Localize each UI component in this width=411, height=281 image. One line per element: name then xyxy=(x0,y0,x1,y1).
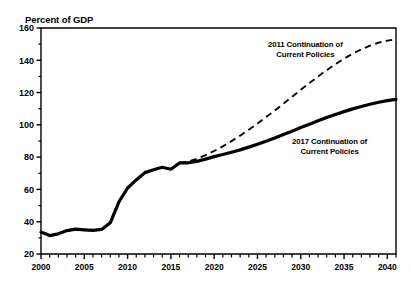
y-tick-label: 20 xyxy=(24,249,34,259)
x-tick-label: 2010 xyxy=(118,262,137,272)
y-tick-label: 160 xyxy=(19,23,34,33)
y-tick-label: 140 xyxy=(19,56,34,66)
annotation-solid-line1: 2017 Continuation of xyxy=(292,137,367,147)
annotation-dashed-line2: Current Policies xyxy=(268,50,343,60)
annotation-solid-line2: Current Policies xyxy=(292,147,367,157)
y-tick-label: 60 xyxy=(24,185,34,195)
annotation-dashed-series: 2011 Continuation of Current Policies xyxy=(268,40,343,60)
x-tick-label: 2015 xyxy=(161,262,180,272)
x-tick-label: 2005 xyxy=(75,262,94,272)
y-tick-label: 40 xyxy=(24,217,34,227)
chart-container: Percent of GDP 2040608010012014016020002… xyxy=(0,0,411,281)
annotation-dashed-line1: 2011 Continuation of xyxy=(268,40,343,50)
x-tick-label: 2000 xyxy=(32,262,51,272)
x-tick-label: 2020 xyxy=(205,262,224,272)
y-tick-label: 80 xyxy=(24,152,34,162)
series-line-solid xyxy=(41,99,396,235)
x-tick-label: 2040 xyxy=(378,262,397,272)
annotation-solid-series: 2017 Continuation of Current Policies xyxy=(292,137,367,157)
y-tick-label: 100 xyxy=(19,120,34,130)
x-tick-label: 2025 xyxy=(248,262,267,272)
x-tick-label: 2035 xyxy=(335,262,354,272)
y-tick-label: 120 xyxy=(19,88,34,98)
x-tick-label: 2030 xyxy=(291,262,310,272)
